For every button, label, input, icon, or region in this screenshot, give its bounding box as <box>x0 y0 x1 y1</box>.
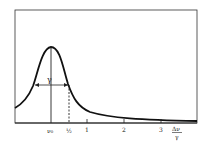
tick-label-nu0: ν₀ <box>47 127 54 134</box>
tick-label-2: 2 <box>122 126 126 133</box>
line-profile-chart: γ ν₀ ½ 1 2 3 Δν γ <box>0 0 207 142</box>
tick-label-3: 3 <box>159 126 163 133</box>
axis-label-denominator: γ <box>175 133 179 141</box>
plot-frame <box>15 10 197 123</box>
axis-label-numerator: Δν <box>172 125 180 132</box>
arrow-left-icon <box>35 83 39 87</box>
resonance-curve <box>15 47 197 121</box>
tick-label-1: 1 <box>85 126 89 133</box>
gamma-label: γ <box>47 75 52 84</box>
tick-label-half: ½ <box>66 127 72 134</box>
